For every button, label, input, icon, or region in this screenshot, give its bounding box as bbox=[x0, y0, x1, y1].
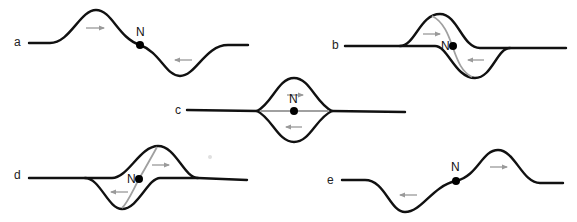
panel-d: d N bbox=[14, 146, 247, 209]
point-n-label: N bbox=[441, 39, 450, 53]
point-n-dot bbox=[452, 177, 460, 185]
point-n-label: N bbox=[127, 172, 136, 186]
baseline-left-c bbox=[187, 110, 257, 111]
baseline-upper-d bbox=[29, 146, 247, 180]
point-n-dot bbox=[136, 41, 144, 49]
panel-c: c N bbox=[175, 78, 405, 142]
diagram-canvas: a N b N c N d N bbox=[0, 0, 577, 222]
point-n-dot bbox=[449, 42, 457, 50]
panel-label-c: c bbox=[175, 103, 181, 117]
panel-e: e N bbox=[327, 150, 563, 212]
point-n-label: N bbox=[289, 92, 298, 106]
panel-label-d: d bbox=[14, 168, 21, 182]
baseline-right-c bbox=[332, 111, 405, 112]
panel-a: a N bbox=[14, 10, 248, 76]
smudge-mark bbox=[208, 155, 212, 159]
point-n-dot bbox=[135, 175, 143, 183]
baseline-lower-b bbox=[400, 46, 510, 78]
baseline-lower-d bbox=[85, 178, 198, 209]
panel-label-e: e bbox=[327, 173, 334, 187]
point-n-dot bbox=[290, 107, 298, 115]
panel-label-b: b bbox=[332, 38, 339, 52]
panel-b: b N bbox=[332, 14, 566, 78]
panel-label-a: a bbox=[14, 35, 21, 49]
point-n-label: N bbox=[136, 25, 145, 39]
point-n-label: N bbox=[451, 160, 460, 174]
